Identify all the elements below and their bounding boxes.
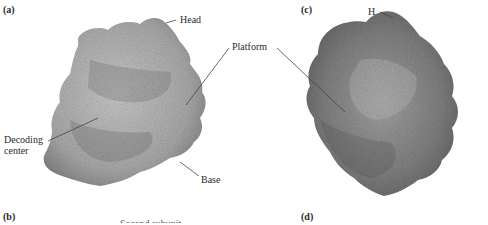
figure-artwork: [0, 0, 488, 225]
base-leader-line: [180, 162, 199, 176]
callout-decoding-center-line2: center: [4, 145, 28, 156]
callout-head: Head: [180, 14, 201, 25]
panel-label-b: (b): [3, 211, 15, 222]
head-leader-line: [166, 20, 176, 23]
callout-base: Base: [201, 174, 220, 185]
panel-label-d: (d): [301, 211, 313, 222]
panel-label-a: (a): [3, 4, 15, 15]
callout-decoding-center-line1: Decoding: [4, 134, 43, 145]
ribosome-subunit-left: [44, 18, 206, 186]
panel-label-c: (c): [301, 4, 312, 15]
callout-platform: Platform: [232, 41, 267, 52]
ribosome-subunit-right: [307, 11, 458, 196]
callout-h: H: [368, 6, 375, 17]
